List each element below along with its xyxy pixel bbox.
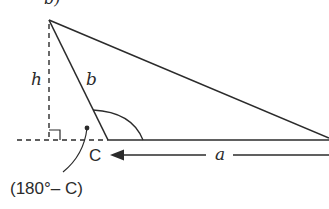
side-b [49, 20, 108, 140]
triangle-diagram: b) h b C a (180°– C) [0, 0, 329, 209]
label-exterior-angle: (180°– C) [10, 179, 83, 198]
figure-partial-label: b) [44, 0, 60, 8]
label-b: b [86, 69, 97, 89]
right-angle-marker [49, 130, 60, 140]
arrow-head-left-icon [110, 150, 124, 161]
label-c: C [89, 146, 101, 165]
label-a: a [215, 144, 225, 164]
exterior-angle-pointer [63, 128, 87, 172]
label-h: h [31, 69, 42, 89]
